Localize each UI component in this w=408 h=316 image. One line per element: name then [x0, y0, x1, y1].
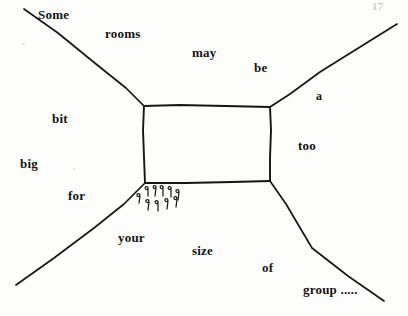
label-a: a [316, 90, 322, 102]
pin-mark [137, 194, 140, 204]
pin-mark [160, 186, 163, 197]
label-may: may [192, 46, 216, 59]
pin-mark [168, 187, 171, 198]
room-top-edge [144, 105, 270, 107]
central-room-rectangle [143, 105, 271, 183]
label-your: your [118, 231, 145, 244]
paper-speck [73, 168, 75, 170]
label-bit: bit [52, 112, 68, 125]
label-some: Some [38, 8, 69, 21]
pin-mark [165, 199, 168, 210]
label-rooms: rooms [105, 27, 140, 40]
pin-mark [174, 197, 177, 208]
label-too: too [298, 139, 316, 152]
pin-mark [145, 187, 148, 197]
upper-right-wall-line [270, 24, 397, 107]
people-pin-marks [137, 186, 179, 212]
label-group: group ..... [303, 283, 358, 296]
upper-left-wall-line [24, 9, 144, 106]
page-corner-mark: 17 [372, 1, 383, 12]
room-bottom-edge [145, 181, 270, 183]
room-left-edge [143, 106, 145, 183]
pin-mark [146, 200, 149, 211]
sketch-canvas: 17 Some rooms may be a bit too big for y… [0, 0, 408, 316]
label-of: of [262, 261, 273, 274]
label-be: be [254, 61, 267, 74]
room-right-edge [270, 107, 271, 181]
label-size: size [192, 244, 213, 257]
pin-mark [153, 186, 156, 197]
pin-mark [155, 201, 158, 212]
label-for: for [68, 189, 85, 202]
paper-speck [22, 43, 25, 45]
label-big: big [20, 157, 38, 170]
